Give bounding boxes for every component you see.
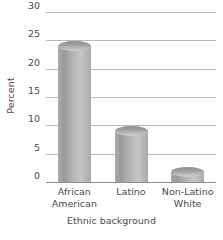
y-tick-label-5: 5 — [16, 143, 40, 153]
y-tick-label-15: 15 — [16, 86, 40, 96]
x-tick-label-line: Non-Latino — [159, 186, 216, 198]
bars-layer — [46, 12, 216, 182]
x-tick-label: Latino — [103, 186, 160, 198]
x-axis-title: Ethnic background — [0, 215, 223, 226]
x-tick-label-line: African — [46, 186, 103, 198]
y-axis-title-text: Percent — [5, 77, 16, 113]
x-tick-label: AfricanAmerican — [46, 186, 103, 209]
x-tick-label-line: American — [46, 198, 103, 210]
bar-body — [58, 46, 91, 182]
bar — [115, 126, 148, 182]
y-tick-label-10: 10 — [16, 114, 40, 124]
bar — [58, 41, 91, 182]
x-tick-label-line: White — [159, 198, 216, 210]
gridline-0 — [46, 182, 216, 183]
y-tick-label-0: 0 — [16, 171, 40, 181]
bar-top-ellipse — [115, 126, 148, 136]
x-tick-label: Non-LatinoWhite — [159, 186, 216, 209]
bar-body — [115, 131, 148, 182]
y-tick-label-20: 20 — [16, 58, 40, 68]
x-tick-label-line: Latino — [103, 186, 160, 198]
y-tick-label-30: 30 — [16, 1, 40, 11]
bar-top-ellipse — [58, 41, 91, 51]
bar — [171, 167, 204, 182]
y-tick-label-25: 25 — [16, 29, 40, 39]
bar-chart: Percent 302520151050 AfricanAmericanLati… — [0, 0, 223, 240]
